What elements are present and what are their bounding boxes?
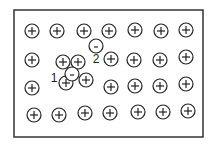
positive-ion-icon [104, 80, 118, 94]
position-label: 1 [51, 71, 58, 85]
positive-ion-icon [79, 73, 93, 87]
positive-ion-icon [154, 24, 168, 38]
positive-ion-icon [179, 50, 193, 64]
position-label: 2 [93, 52, 100, 66]
positive-ion-icon [131, 105, 145, 119]
positive-ion-icon [25, 81, 39, 95]
positive-ion-icon [56, 55, 70, 69]
positive-ion-icon [127, 53, 141, 67]
positive-ion-icon [103, 106, 117, 120]
ion-lattice-diagram: 12 [0, 0, 217, 144]
positive-ion-icon [153, 53, 167, 67]
positive-ion-icon [181, 104, 195, 118]
negative-charge-icon [65, 67, 79, 81]
positive-ion-icon [25, 53, 39, 67]
positive-ion-icon [128, 23, 142, 37]
positive-ion-icon [27, 108, 41, 122]
positive-ion-icon [156, 105, 170, 119]
positive-ion-icon [104, 52, 118, 66]
positive-ion-icon [50, 24, 64, 38]
positive-ion-icon [102, 24, 116, 38]
positive-ion-icon [128, 79, 142, 93]
positive-ion-icon [179, 23, 193, 37]
negative-charge-icon [89, 39, 103, 53]
positive-ion-icon [179, 77, 193, 91]
positive-ion-icon [153, 79, 167, 93]
positive-ion-icon [78, 106, 92, 120]
positive-ion-icon [25, 24, 39, 38]
positive-ion-icon [77, 24, 91, 38]
positive-ion-icon [52, 108, 66, 122]
